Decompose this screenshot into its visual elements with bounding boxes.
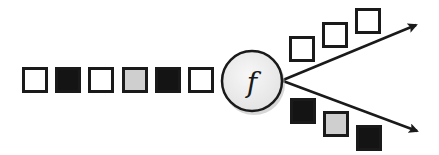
input-token-white <box>90 69 113 92</box>
upper-token-white <box>291 38 314 61</box>
input-token-white <box>24 69 47 92</box>
lower-token-black <box>292 100 315 123</box>
input-token-black <box>57 69 80 92</box>
upper-token-white <box>357 10 380 33</box>
lower-token-gray <box>325 113 348 136</box>
function-node: f <box>222 51 285 115</box>
upper-output-stream <box>291 10 380 61</box>
output-token-streams <box>291 10 381 150</box>
input-token-black <box>157 69 180 92</box>
input-token-stream <box>24 69 213 92</box>
input-token-gray <box>124 69 147 92</box>
lower-token-black <box>358 127 381 150</box>
diagram-canvas: f <box>0 0 439 155</box>
input-token-white <box>190 69 213 92</box>
lower-output-stream <box>292 100 381 150</box>
upper-token-white <box>324 24 347 47</box>
